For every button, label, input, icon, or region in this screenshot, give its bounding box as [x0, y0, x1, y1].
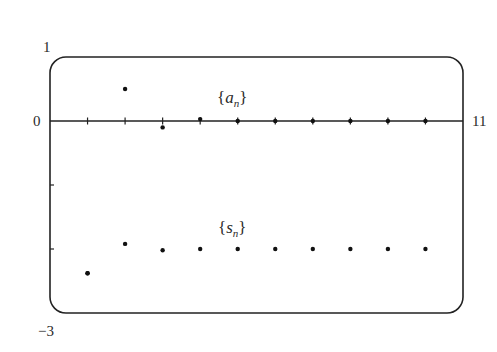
data-point: [236, 119, 240, 123]
data-point: [273, 119, 277, 123]
plot-frame: [50, 57, 463, 313]
series-label-sn: {sn}: [218, 218, 246, 239]
data-point: [160, 125, 164, 129]
series-sn-points: [85, 242, 427, 276]
data-point: [386, 247, 390, 251]
series-label-an: {an}: [217, 88, 247, 109]
data-point: [160, 248, 164, 252]
data-point: [198, 247, 202, 251]
data-point: [348, 119, 352, 123]
x-label-right: 11: [472, 113, 486, 129]
data-point: [236, 247, 240, 251]
data-point: [123, 87, 127, 91]
data-point: [123, 242, 127, 246]
y-label-top: 1: [43, 39, 51, 55]
series-label-an-main: a: [225, 88, 234, 107]
data-point: [423, 119, 427, 123]
data-point: [386, 119, 390, 123]
data-point: [311, 247, 315, 251]
data-point: [85, 271, 89, 275]
series-an-points: [85, 87, 427, 276]
data-point: [423, 247, 427, 251]
y-label-zero: 0: [33, 113, 41, 129]
data-point: [348, 247, 352, 251]
data-point: [311, 119, 315, 123]
y-label-bottom: −3: [38, 323, 54, 339]
data-point: [273, 247, 277, 251]
sequence-plot: 1 0 −3 11 {an} {sn}: [0, 0, 497, 352]
data-point: [198, 117, 202, 121]
